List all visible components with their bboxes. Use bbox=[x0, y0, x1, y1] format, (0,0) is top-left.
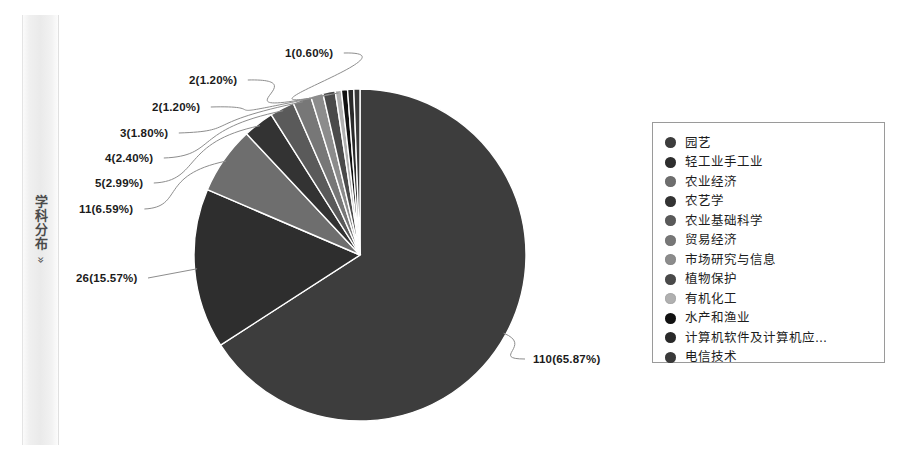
legend-item[interactable]: 电信技术 bbox=[665, 348, 884, 368]
legend-label: 电信技术 bbox=[685, 351, 737, 364]
legend-label: 园艺 bbox=[685, 137, 711, 150]
legend-label: 有机化工 bbox=[685, 293, 737, 306]
legend-swatch-icon bbox=[665, 332, 676, 343]
legend-item[interactable]: 农业基础科学 bbox=[665, 211, 884, 231]
pie-chart-svg bbox=[60, 0, 660, 457]
legend-item[interactable]: 农业经济 bbox=[665, 172, 884, 192]
legend-swatch-icon bbox=[665, 352, 676, 363]
legend-item[interactable]: 水产和渔业 bbox=[665, 309, 884, 329]
pie-data-label: 1(0.60%) bbox=[285, 47, 333, 59]
chart-area: 110(65.87%)26(15.57%)11(6.59%)5(2.99%)4(… bbox=[60, 0, 660, 457]
discipline-distribution-sidebar[interactable]: 学科分布 » bbox=[22, 15, 59, 445]
legend-label: 市场研究与信息 bbox=[685, 254, 776, 267]
pie-data-label: 3(1.80%) bbox=[120, 127, 168, 139]
legend-swatch-icon bbox=[665, 157, 676, 168]
sidebar-label: 学科分布 bbox=[34, 195, 47, 251]
legend-swatch-icon bbox=[665, 293, 676, 304]
legend-label: 计算机软件及计算机应... bbox=[685, 332, 827, 345]
legend-swatch-icon bbox=[665, 196, 676, 207]
pie-slices[interactable] bbox=[194, 89, 526, 421]
legend-label: 农业基础科学 bbox=[685, 215, 763, 228]
pie-data-label: 110(65.87%) bbox=[533, 353, 600, 365]
sidebar-inner: 学科分布 » bbox=[23, 15, 58, 445]
legend-item[interactable]: 农艺学 bbox=[665, 192, 884, 212]
pie-chart-figure: 学科分布 » 110(65.87%)26(15.57%)11(6.59%)5(2… bbox=[0, 0, 907, 457]
pie-data-label: 26(15.57%) bbox=[76, 272, 137, 284]
double-chevron-right-icon[interactable]: » bbox=[35, 256, 47, 263]
pie-data-label: 5(2.99%) bbox=[95, 177, 143, 189]
legend-label: 水产和渔业 bbox=[685, 312, 750, 325]
legend-label: 轻工业手工业 bbox=[685, 156, 763, 169]
legend-label: 植物保护 bbox=[685, 273, 737, 286]
legend-swatch-icon bbox=[665, 254, 676, 265]
legend-item[interactable]: 贸易经济 bbox=[665, 231, 884, 251]
legend-swatch-icon bbox=[665, 215, 676, 226]
legend-item[interactable]: 有机化工 bbox=[665, 289, 884, 309]
legend-label: 贸易经济 bbox=[685, 234, 737, 247]
chart-legend[interactable]: 园艺轻工业手工业农业经济农艺学农业基础科学贸易经济市场研究与信息植物保护有机化工… bbox=[652, 122, 885, 363]
pie-data-label: 11(6.59%) bbox=[79, 203, 133, 215]
legend-swatch-icon bbox=[665, 137, 676, 148]
legend-swatch-icon bbox=[665, 274, 676, 285]
pie-data-label: 2(1.20%) bbox=[152, 101, 200, 113]
legend-item[interactable]: 植物保护 bbox=[665, 270, 884, 290]
legend-item[interactable]: 市场研究与信息 bbox=[665, 250, 884, 270]
legend-label: 农艺学 bbox=[685, 195, 724, 208]
leader-line bbox=[504, 333, 525, 359]
legend-item[interactable]: 轻工业手工业 bbox=[665, 153, 884, 173]
pie-data-label: 2(1.20%) bbox=[189, 74, 237, 86]
legend-label: 农业经济 bbox=[685, 176, 737, 189]
legend-item[interactable]: 计算机软件及计算机应... bbox=[665, 328, 884, 348]
legend-item[interactable]: 园艺 bbox=[665, 133, 884, 153]
leader-line bbox=[148, 269, 197, 278]
pie-data-label: 4(2.40%) bbox=[105, 152, 153, 164]
legend-swatch-icon bbox=[665, 176, 676, 187]
legend-swatch-icon bbox=[665, 313, 676, 324]
legend-swatch-icon bbox=[665, 235, 676, 246]
